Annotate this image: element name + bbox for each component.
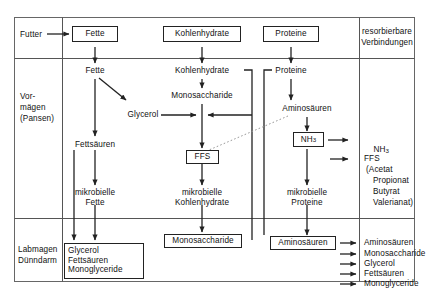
box-feed-kohlenhydrate: Kohlenhydrate xyxy=(163,26,241,42)
header-right-line1: resorbierbare xyxy=(362,27,412,37)
box-feed-fette: Fette xyxy=(72,26,118,42)
label-kohlenhydrate-rumen: Kohlenhydrate xyxy=(175,66,229,76)
box-nh3-rumen: NH3 xyxy=(293,132,324,147)
label-mikrobielle-kh-2: Kohlenhydrate xyxy=(175,198,229,208)
label-fette-rumen: Fette xyxy=(85,66,104,76)
row-label-duenndarm: Dünndarm xyxy=(18,256,57,266)
label-mikrobielle-proteine-1: mikrobielle xyxy=(287,188,327,198)
label-ffs-detail-4: Valerianat) xyxy=(373,198,413,208)
label-mikrobielle-kh-1: mikrobielle xyxy=(182,188,222,198)
header-right-line2: Verbindungen xyxy=(361,38,413,48)
label-proteine-rumen: Proteine xyxy=(275,66,306,76)
label-absorbable-ffs: FFS xyxy=(364,154,380,164)
box-intestine-aminosaeuren: Aminosäuren xyxy=(270,236,336,250)
label-aminosaeuren-rumen: Aminosäuren xyxy=(282,104,331,114)
box-intestine-monosaccharide: Monosaccharide xyxy=(164,234,242,248)
arrow-fette-glycerol xyxy=(99,78,126,100)
label-mikrobielle-fette-2: Fette xyxy=(85,198,104,208)
label-absorbed-fettsaeuren: Fettsäuren xyxy=(364,269,404,279)
diagram-canvas: Futter Vor- mägen (Pansen) Labmagen Dünn… xyxy=(0,0,430,293)
label-absorbed-monoglyceride: Monoglyceride xyxy=(364,279,419,289)
label-absorbed-glycerol: Glycerol xyxy=(364,259,395,269)
intestine-fat-line-2: Fettsäuren xyxy=(68,256,108,266)
bracket-proteine-bypass xyxy=(264,70,272,235)
nh3-subscript: 3 xyxy=(313,135,317,145)
label-ffs-detail-2: Propionat xyxy=(373,176,409,186)
label-mikrobielle-proteine-2: Proteine xyxy=(291,198,322,208)
label-ffs-detail-1: (Acetat xyxy=(366,165,393,175)
label-glycerol-rumen: Glycerol xyxy=(128,110,159,120)
row-label-labmagen: Labmagen xyxy=(18,245,58,255)
label-monosaccharide-rumen: Monosaccharide xyxy=(171,91,232,101)
absorbable-nh3-subscript: 3 xyxy=(386,147,390,154)
label-fettsaeuren-rumen: Fettsäuren xyxy=(75,140,115,150)
box-intestine-fat: Glycerol Fettsäuren Monoglyceride xyxy=(64,243,144,279)
row-label-futter: Futter xyxy=(20,30,42,40)
box-ffs-rumen: FFS xyxy=(186,150,219,164)
row-label-vormaegen-2: mägen xyxy=(20,103,46,113)
intestine-fat-line-1: Glycerol xyxy=(68,246,99,256)
label-mikrobielle-fette-1: mikrobielle xyxy=(75,188,115,198)
label-absorbed-monosaccharide: Monosaccharide xyxy=(364,249,425,259)
row-label-vormaegen-3: (Pansen) xyxy=(20,114,54,124)
bracket-kohlenhydrate-bypass xyxy=(244,70,252,240)
absorbable-nh3-base: NH xyxy=(374,145,386,154)
label-ffs-detail-3: Butyrat xyxy=(373,187,400,197)
label-absorbed-aminosaeuren: Aminosäuren xyxy=(364,238,413,248)
row-label-vormaegen-1: Vor- xyxy=(20,92,35,102)
box-feed-proteine: Proteine xyxy=(263,26,319,42)
intestine-fat-line-3: Monoglyceride xyxy=(68,265,123,275)
nh3-base: NH xyxy=(301,135,313,145)
